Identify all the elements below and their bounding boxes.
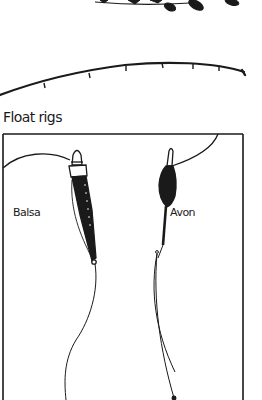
- fishing-rod-icon: [0, 63, 245, 95]
- avon-float-icon: [154, 134, 218, 400]
- section-heading: Float rigs: [3, 109, 62, 125]
- balsa-float-icon: [3, 151, 96, 400]
- illustration-canvas: [0, 0, 262, 400]
- balsa-label: Balsa: [13, 206, 40, 219]
- rig-frame: [3, 134, 243, 400]
- avon-label: Avon: [170, 206, 195, 219]
- fish-fragment-icon: [95, 0, 240, 13]
